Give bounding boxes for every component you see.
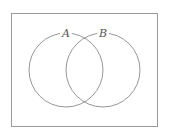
set-b-label: B xyxy=(98,27,107,40)
venn-diagram: A B xyxy=(0,0,169,133)
universal-set-frame xyxy=(12,14,158,127)
set-a-label: A xyxy=(61,27,70,40)
